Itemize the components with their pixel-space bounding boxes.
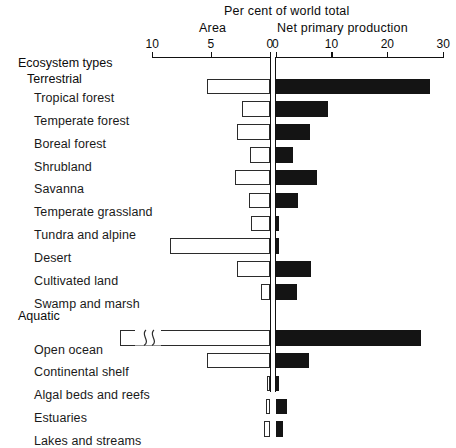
bar-npp <box>276 238 280 254</box>
row-label: Continental shelf <box>34 365 129 379</box>
bar-area <box>242 101 270 117</box>
bar-npp <box>276 376 279 392</box>
bar-area <box>267 376 270 392</box>
bar-area <box>170 238 270 254</box>
tick-label-area-5: 5 <box>208 37 215 51</box>
row-label: Shrubland <box>34 160 92 174</box>
tick-label-npp-0: 0 <box>272 37 279 51</box>
bar-npp <box>276 353 310 369</box>
tick-label-area-10: 10 <box>146 37 159 51</box>
row-label: Temperate forest <box>34 114 129 128</box>
bar-area <box>261 284 270 300</box>
bar-npp <box>276 421 283 437</box>
right-panel-title: Net primary production <box>277 21 408 35</box>
group-header-terrestrial: Terrestrial <box>27 72 82 86</box>
row-label: Cultivated land <box>34 274 118 288</box>
bar-npp <box>276 261 312 277</box>
bar-area <box>235 170 270 186</box>
bar-npp <box>276 124 311 140</box>
bar-npp <box>276 101 328 117</box>
row-label: Temperate grassland <box>34 205 153 219</box>
row-label: Tropical forest <box>34 91 114 105</box>
bar-area <box>249 193 270 209</box>
row-label: Savanna <box>34 182 84 196</box>
bar-area <box>264 421 270 437</box>
bar-area <box>237 261 270 277</box>
tick-mark-npp-30 <box>443 52 444 58</box>
bar-area <box>250 147 270 163</box>
bar-area <box>251 216 270 232</box>
tick-label-npp-30: 30 <box>437 37 450 51</box>
bar-npp <box>276 284 298 300</box>
left-axis-line <box>152 57 271 58</box>
bar-npp <box>276 147 294 163</box>
bar-area <box>266 399 270 415</box>
group-header-aquatic: Aquatic <box>18 309 60 323</box>
bar-area <box>237 124 270 140</box>
bar-npp <box>276 216 279 232</box>
bar-npp <box>276 330 421 346</box>
bar-npp <box>276 399 287 415</box>
right-axis-line <box>275 57 443 58</box>
bar-area <box>207 79 270 95</box>
row-label: Estuaries <box>34 411 87 425</box>
ecosystem-types-header: Ecosystem types <box>18 56 112 70</box>
bar-npp <box>276 79 431 95</box>
bar-npp <box>276 170 318 186</box>
row-label: Algal beds and reefs <box>34 388 150 402</box>
chart-title: Per cent of world total <box>224 4 350 18</box>
bar-area <box>207 353 270 369</box>
row-label: Desert <box>34 251 71 265</box>
row-label: Boreal forest <box>34 137 106 151</box>
tick-label-npp-20: 20 <box>381 37 394 51</box>
left-panel-title: Area <box>199 21 226 35</box>
row-label: Tundra and alpine <box>34 228 136 242</box>
row-label: Lakes and streams <box>34 434 141 448</box>
bar-area <box>120 330 270 346</box>
bar-npp <box>276 193 299 209</box>
tick-label-npp-10: 10 <box>325 37 338 51</box>
row-label: Swamp and marsh <box>34 297 140 311</box>
row-label: Open ocean <box>34 343 103 357</box>
